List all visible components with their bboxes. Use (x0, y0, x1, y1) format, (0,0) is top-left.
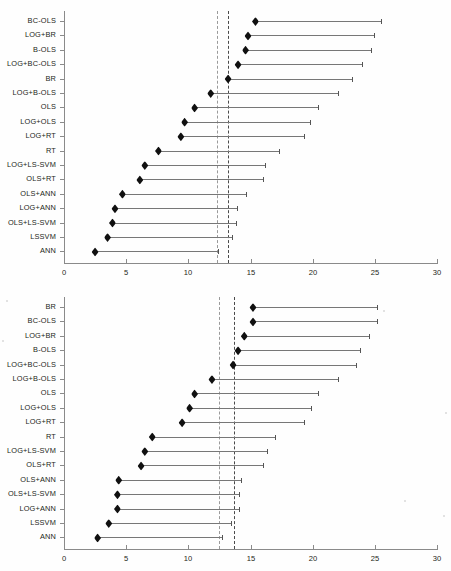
upper-cap-bottom-12 (241, 478, 242, 483)
category-label-bottom-8: LOG+RT (0, 418, 56, 426)
range-line-top-10 (145, 165, 266, 166)
upper-cap-bottom-3 (360, 348, 361, 353)
range-line-bottom-6 (195, 393, 318, 394)
y-tick-bottom-6 (60, 393, 64, 394)
category-label-bottom-4: LOG+BC-OLS (0, 361, 56, 369)
x-tick-top-0 (64, 259, 65, 263)
upper-cap-bottom-16 (222, 535, 223, 540)
range-line-bottom-12 (119, 480, 241, 481)
range-line-bottom-14 (117, 509, 239, 510)
range-line-bottom-15 (109, 523, 231, 524)
x-axis-bottom (64, 549, 438, 550)
range-line-bottom-0 (253, 307, 377, 308)
x-tick-label-bottom-5: 25 (365, 554, 385, 563)
data-point-marker-bottom-5 (208, 375, 215, 384)
category-label-bottom-16: ANN (0, 533, 56, 541)
x-tick-bottom-4 (313, 545, 314, 549)
data-point-marker-bottom-3 (235, 346, 242, 355)
range-line-bottom-3 (238, 350, 360, 351)
range-line-top-8 (181, 136, 304, 137)
range-line-top-2 (246, 50, 372, 51)
range-line-top-6 (195, 107, 318, 108)
category-label-top-11: OLS+RT (0, 175, 56, 183)
range-line-bottom-11 (141, 465, 263, 466)
y-tick-top-2 (60, 50, 64, 51)
y-tick-bottom-15 (60, 523, 64, 524)
upper-cap-top-8 (304, 134, 305, 139)
y-tick-bottom-9 (60, 437, 64, 438)
data-point-marker-bottom-13 (114, 490, 121, 499)
y-tick-top-0 (60, 21, 64, 22)
data-point-marker-top-12 (119, 190, 126, 199)
upper-cap-top-6 (318, 105, 319, 110)
upper-cap-bottom-8 (304, 420, 305, 425)
y-tick-bottom-10 (60, 451, 64, 452)
upper-cap-top-7 (310, 120, 311, 125)
category-label-bottom-7: LOG+OLS (0, 404, 56, 412)
range-line-bottom-16 (98, 537, 222, 538)
upper-cap-top-5 (338, 91, 339, 96)
data-point-marker-bottom-14 (114, 505, 121, 514)
data-point-marker-top-16 (92, 247, 99, 256)
y-tick-bottom-13 (60, 494, 64, 495)
y-tick-top-6 (60, 107, 64, 108)
scan-artifact-2 (404, 500, 406, 502)
category-label-bottom-1: BC-OLS (0, 317, 56, 325)
data-point-marker-bottom-7 (186, 404, 193, 413)
y-tick-top-14 (60, 223, 64, 224)
data-point-marker-bottom-6 (191, 389, 198, 398)
data-point-marker-top-7 (181, 118, 188, 127)
data-point-marker-top-10 (141, 161, 148, 170)
upper-cap-bottom-11 (263, 463, 264, 468)
upper-cap-top-10 (265, 163, 266, 168)
data-point-marker-top-3 (235, 60, 242, 69)
upper-cap-bottom-2 (369, 334, 370, 339)
y-tick-top-3 (60, 64, 64, 65)
upper-cap-top-3 (362, 62, 363, 67)
category-label-bottom-10: LOG+LS-SVM (0, 447, 56, 455)
x-tick-label-bottom-3: 15 (241, 554, 261, 563)
category-label-top-2: B-OLS (0, 46, 56, 54)
category-label-top-10: LOG+LS-SVM (0, 161, 56, 169)
reference-line-top-0 (217, 11, 218, 263)
data-point-marker-top-13 (111, 204, 118, 213)
x-tick-label-bottom-2: 10 (178, 554, 198, 563)
range-line-top-15 (108, 237, 232, 238)
range-line-top-16 (95, 251, 218, 252)
y-tick-bottom-2 (60, 336, 64, 337)
x-tick-top-5 (375, 259, 376, 263)
y-tick-bottom-7 (60, 408, 64, 409)
data-point-marker-top-8 (177, 132, 184, 141)
x-tick-top-2 (188, 259, 189, 263)
category-label-top-5: LOG+B-OLS (0, 89, 56, 97)
category-label-top-0: BC-OLS (0, 17, 56, 25)
range-line-top-0 (255, 21, 381, 22)
category-label-bottom-9: RT (0, 433, 56, 441)
category-label-top-7: LOG+OLS (0, 118, 56, 126)
upper-cap-top-4 (352, 77, 353, 82)
x-tick-bottom-0 (64, 545, 65, 549)
data-point-marker-top-6 (191, 103, 198, 112)
x-tick-label-top-2: 10 (178, 268, 198, 277)
scan-artifact-3 (6, 300, 8, 302)
upper-cap-bottom-9 (275, 435, 276, 440)
y-tick-top-13 (60, 208, 64, 209)
y-tick-bottom-11 (60, 465, 64, 466)
upper-cap-bottom-10 (267, 449, 268, 454)
scan-artifact-4 (2, 340, 4, 342)
x-tick-label-top-1: 5 (116, 268, 136, 277)
range-line-bottom-8 (182, 422, 304, 423)
range-line-bottom-7 (190, 408, 312, 409)
data-point-marker-bottom-16 (94, 533, 101, 542)
reference-line-top-1 (228, 11, 229, 263)
x-tick-label-bottom-1: 5 (116, 554, 136, 563)
range-line-top-1 (248, 35, 374, 36)
y-tick-bottom-4 (60, 365, 64, 366)
range-line-bottom-2 (244, 336, 368, 337)
data-point-marker-bottom-15 (105, 519, 112, 528)
range-line-top-14 (112, 223, 235, 224)
y-tick-bottom-5 (60, 379, 64, 380)
x-tick-top-1 (126, 259, 127, 263)
y-axis-top (64, 11, 65, 263)
scan-artifact-1 (445, 412, 447, 414)
